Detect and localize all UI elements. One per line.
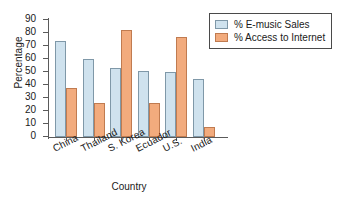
bar [66, 88, 77, 137]
legend-item-label: % E-music Sales [234, 19, 310, 30]
y-axis-tick-label: 50 [14, 65, 36, 76]
plot-area: 9080706050403020100 [48, 20, 223, 137]
y-axis-tick: 50 [43, 71, 48, 72]
legend-item: % Access to Internet [215, 31, 325, 44]
chart-legend: % E-music Sales% Access to Internet [209, 13, 332, 49]
y-axis-tick-label: 20 [14, 104, 36, 115]
legend-item-label: % Access to Internet [234, 32, 325, 43]
y-axis-tick-label: 30 [14, 91, 36, 102]
y-axis-tick-label: 40 [14, 78, 36, 89]
y-axis-tick: 10 [43, 123, 48, 124]
y-axis-tick-label: 0 [14, 130, 36, 141]
y-axis-tick: 90 [43, 19, 48, 20]
y-axis-tick: 70 [43, 45, 48, 46]
y-axis-tick-label: 10 [14, 117, 36, 128]
bar [121, 30, 132, 137]
y-axis-tick: 40 [43, 84, 48, 85]
y-axis-tick: 20 [43, 110, 48, 111]
y-axis-tick-label: 80 [14, 26, 36, 37]
legend-swatch-icon [215, 33, 228, 42]
y-axis-tick-label: 60 [14, 52, 36, 63]
y-axis-tick-label: 90 [14, 13, 36, 24]
y-axis-tick: 0 [43, 136, 48, 137]
bar [83, 59, 94, 137]
bar [193, 79, 204, 138]
bar [55, 41, 66, 137]
y-axis-tick: 80 [43, 32, 48, 33]
y-axis-tick: 60 [43, 58, 48, 59]
y-axis-tick-label: 70 [14, 39, 36, 50]
x-axis-title: Country [0, 181, 258, 192]
bar [176, 37, 187, 137]
legend-item: % E-music Sales [215, 18, 325, 31]
bar-chart: Percentage 9080706050403020100 ChinaThai… [0, 0, 345, 203]
legend-swatch-icon [215, 20, 228, 29]
y-axis-tick: 30 [43, 97, 48, 98]
y-axis-line [48, 18, 49, 139]
